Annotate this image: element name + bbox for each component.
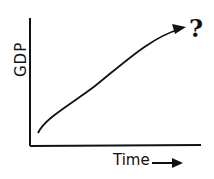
chart-canvas — [0, 0, 214, 179]
time-arrow-head — [172, 158, 183, 168]
gdp-curve — [38, 29, 180, 133]
curve-arrowhead — [172, 24, 186, 34]
question-mark-annotation: ? — [189, 14, 203, 43]
x-axis — [30, 145, 201, 146]
y-axis-label: GDP — [11, 43, 31, 77]
x-axis-label: Time — [113, 151, 150, 169]
